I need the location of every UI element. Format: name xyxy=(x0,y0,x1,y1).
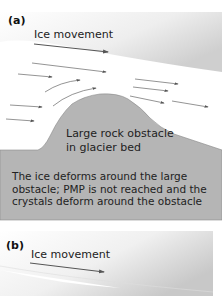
panel-a-label: (a) xyxy=(8,14,25,27)
ice-movement-label-b: Ice movement xyxy=(31,248,110,261)
caption-line3: crystals deform around the obstacle xyxy=(12,195,207,208)
flow-arrow xyxy=(32,63,106,72)
obstacle-label-line2: in glacier bed xyxy=(66,141,141,154)
ice-movement-label-a: Ice movement xyxy=(34,28,113,41)
flow-arrow xyxy=(172,101,208,107)
caption-a: The ice deforms around the large obstacl… xyxy=(12,170,207,208)
obstacle-label-line1: Large rock obstacle xyxy=(66,127,174,140)
flow-arrow xyxy=(45,80,80,92)
flow-arrow xyxy=(130,96,164,103)
flow-arrow xyxy=(10,105,42,107)
flow-arrow xyxy=(6,119,34,121)
flow-arrow xyxy=(18,74,52,77)
flow-arrow xyxy=(133,87,168,91)
panel-b-label: (b) xyxy=(6,239,24,252)
caption-line2: obstacle; PMP is not reached and the xyxy=(12,183,207,196)
flow-arrow xyxy=(135,79,178,84)
caption-line1: The ice deforms around the large xyxy=(12,170,207,183)
